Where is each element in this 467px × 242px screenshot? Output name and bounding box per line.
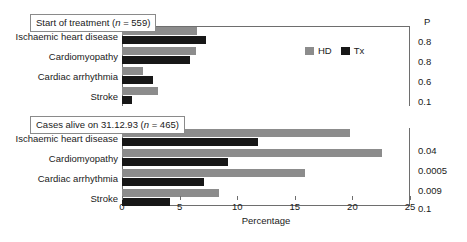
bar-tx: [122, 36, 206, 44]
category-label: Cardiac arrhythmia: [38, 173, 118, 184]
x-tick-label: 15: [290, 201, 301, 212]
legend-item-hd: HD: [305, 45, 332, 56]
table-row: Stroke: [0, 86, 467, 106]
x-tick-label: 25: [405, 201, 416, 212]
bar-rows-top: Ischaemic heart disease Cardiomyopathy C…: [0, 26, 467, 106]
x-tick: [180, 196, 181, 200]
category-label: Ischaemic heart disease: [16, 31, 118, 42]
p-value: 0.04: [418, 145, 437, 156]
x-tick: [122, 196, 123, 200]
legend-swatch-tx-icon: [341, 47, 350, 55]
legend-label-hd: HD: [318, 45, 332, 56]
legend-label-tx: Tx: [354, 45, 365, 56]
bar-hd: [122, 149, 382, 157]
x-tick-label: 0: [119, 201, 124, 212]
category-label: Cardiomyopathy: [49, 153, 118, 164]
legend-swatch-hd-icon: [305, 47, 314, 55]
category-label: Stroke: [91, 91, 118, 102]
bar-hd: [122, 47, 196, 55]
x-tick: [295, 196, 296, 200]
p-value: 0.1: [418, 203, 431, 214]
table-row: Cardiomyopathy: [0, 46, 467, 66]
category-label: Cardiac arrhythmia: [38, 71, 118, 82]
table-row: Cardiomyopathy: [0, 148, 467, 168]
panel-caption-bottom: Cases alive on 31.12.93 (n = 465): [30, 116, 185, 134]
x-tick-label: 20: [347, 201, 358, 212]
bar-hd: [122, 87, 158, 95]
x-tick-label: 10: [232, 201, 243, 212]
p-column-header: P: [424, 16, 430, 27]
p-value: 0.8: [418, 36, 431, 47]
caption-prefix: Start of treatment (: [36, 17, 115, 28]
panel-start-of-treatment: HD Tx Ischaemic heart disease Cardiomyop…: [0, 0, 467, 118]
p-value: 0.8: [418, 56, 431, 67]
p-value: 0.1: [418, 96, 431, 107]
x-tick: [410, 196, 411, 200]
x-tick-label: 5: [177, 201, 182, 212]
caption-suffix: = 559): [121, 17, 151, 28]
bar-tx: [122, 158, 228, 166]
panel-caption-top: Start of treatment (n = 559): [30, 14, 156, 32]
category-label: Ischaemic heart disease: [16, 133, 118, 144]
bar-tx: [122, 56, 190, 64]
caption-prefix: Cases alive on 31.12.93 (: [36, 119, 144, 130]
table-row: Cardiac arrhythmia: [0, 168, 467, 188]
bar-hd: [122, 67, 143, 75]
bar-hd: [122, 169, 305, 177]
chart-figure: HD Tx Ischaemic heart disease Cardiomyop…: [0, 0, 467, 242]
p-value: 0.0005: [418, 165, 447, 176]
p-value: 0.6: [418, 76, 431, 87]
bar-tx: [122, 76, 153, 84]
category-label: Cardiomyopathy: [49, 51, 118, 62]
chart-legend: HD Tx: [305, 45, 364, 56]
legend-item-tx: Tx: [341, 45, 365, 56]
x-tick: [352, 196, 353, 200]
bar-tx: [122, 138, 258, 146]
bar-tx: [122, 96, 132, 104]
x-axis-title: Percentage: [122, 215, 410, 226]
bar-tx: [122, 178, 204, 186]
table-row: Cardiac arrhythmia: [0, 66, 467, 86]
caption-suffix: = 465): [149, 119, 179, 130]
category-label: Stroke: [91, 193, 118, 204]
p-value: 0.009: [418, 185, 442, 196]
x-tick: [237, 196, 238, 200]
